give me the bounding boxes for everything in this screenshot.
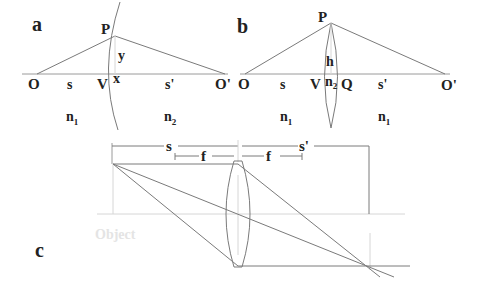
medium-n2-lens-b: n2 bbox=[325, 74, 338, 91]
label-y: y bbox=[118, 48, 125, 63]
medium-n1-left-b: n1 bbox=[280, 109, 293, 127]
panel-b-label: b bbox=[237, 15, 248, 37]
optics-figure: a P y O s V x s' O' n1 n2 b P h O s V n bbox=[0, 0, 477, 293]
panel-a-label: a bbox=[32, 13, 42, 35]
distance-s-a: s bbox=[67, 77, 73, 92]
point-O-b: O bbox=[238, 76, 250, 92]
medium-n2-a: n2 bbox=[164, 109, 177, 127]
distance-s-prime-a: s' bbox=[165, 77, 174, 92]
dim-label-s-prime: s' bbox=[299, 138, 309, 154]
refracted-ray-a bbox=[115, 36, 225, 74]
distance-s-b: s bbox=[280, 77, 286, 92]
point-P-a: P bbox=[101, 21, 110, 37]
dim-label-f-right: f bbox=[266, 148, 272, 164]
ray-chief bbox=[113, 164, 394, 277]
medium-n1-a: n1 bbox=[66, 109, 79, 127]
refracted-ray-b bbox=[331, 23, 445, 74]
label-x: x bbox=[113, 71, 120, 86]
panel-c-label: c bbox=[35, 239, 44, 261]
point-V-b: V bbox=[310, 76, 321, 92]
incident-ray-a bbox=[37, 36, 115, 74]
point-V-a: V bbox=[97, 76, 108, 92]
ray-parallel-refracted bbox=[238, 164, 380, 277]
point-O-a: O bbox=[28, 76, 40, 92]
point-O-prime-b: O' bbox=[441, 77, 457, 93]
incident-ray-b bbox=[245, 23, 331, 74]
point-P-b: P bbox=[318, 9, 327, 25]
point-Q-b: Q bbox=[341, 76, 353, 92]
distance-s-prime-b: s' bbox=[378, 77, 387, 92]
point-O-prime-a: O' bbox=[215, 76, 231, 92]
refracting-surface-a bbox=[108, 2, 120, 130]
panel-b: b P h O s V n2 Q s' O' n1 n1 bbox=[237, 9, 457, 128]
label-h: h bbox=[326, 54, 334, 69]
panel-c: c Object s f s' f bbox=[35, 138, 410, 277]
dim-label-s: s bbox=[166, 138, 172, 154]
object-label: Object bbox=[95, 227, 136, 242]
ray-focal bbox=[113, 164, 238, 266]
medium-n1-right-b: n1 bbox=[378, 109, 391, 127]
panel-a: a P y O s V x s' O' n1 n2 bbox=[22, 2, 231, 130]
dim-label-f-left: f bbox=[201, 148, 207, 164]
